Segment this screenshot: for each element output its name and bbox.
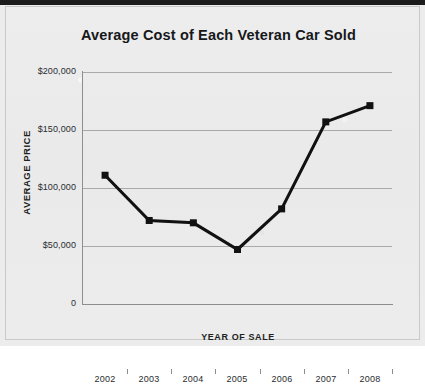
scan-top-band bbox=[0, 0, 425, 5]
x-tick-label-2006: 2006 bbox=[259, 374, 305, 384]
data-point-2006 bbox=[278, 205, 285, 212]
data-point-2007 bbox=[322, 118, 329, 125]
x-tick-label-2003: 2003 bbox=[126, 374, 172, 384]
chart-frame: Average Cost of Each Veteran Car Sold AV… bbox=[5, 6, 420, 340]
y-tick-label-0: 0 bbox=[10, 298, 76, 308]
plot-area: $200,000 $150,000 $100,000 $50,000 0 200… bbox=[83, 72, 392, 304]
x-axis-title: YEAR OF SALE bbox=[83, 332, 393, 342]
chart-title: Average Cost of Each Veteran Car Sold bbox=[6, 27, 425, 43]
y-tick-label-50000: $50,000 bbox=[10, 240, 76, 250]
data-point-2004 bbox=[190, 219, 197, 226]
y-tick-label-100000: $100,000 bbox=[10, 182, 76, 192]
series-markers bbox=[102, 102, 374, 253]
y-tick-label-200000: $200,000 bbox=[10, 66, 76, 76]
x-tick-label-2008: 2008 bbox=[347, 374, 393, 384]
x-tick-label-2002: 2002 bbox=[82, 374, 128, 384]
data-point-2002 bbox=[102, 172, 109, 179]
x-tick-label-2004: 2004 bbox=[170, 374, 216, 384]
line-series bbox=[83, 72, 392, 304]
data-point-2008 bbox=[366, 102, 373, 109]
data-point-2003 bbox=[146, 217, 153, 224]
x-axis-line bbox=[82, 304, 393, 305]
x-tick-label-2007: 2007 bbox=[303, 374, 349, 384]
series-line-path bbox=[105, 106, 370, 250]
data-point-2005 bbox=[234, 246, 241, 253]
y-tick-label-150000: $150,000 bbox=[10, 124, 76, 134]
x-tick-label-2005: 2005 bbox=[214, 374, 260, 384]
y-axis-title: AVERAGE PRICE bbox=[21, 118, 32, 228]
